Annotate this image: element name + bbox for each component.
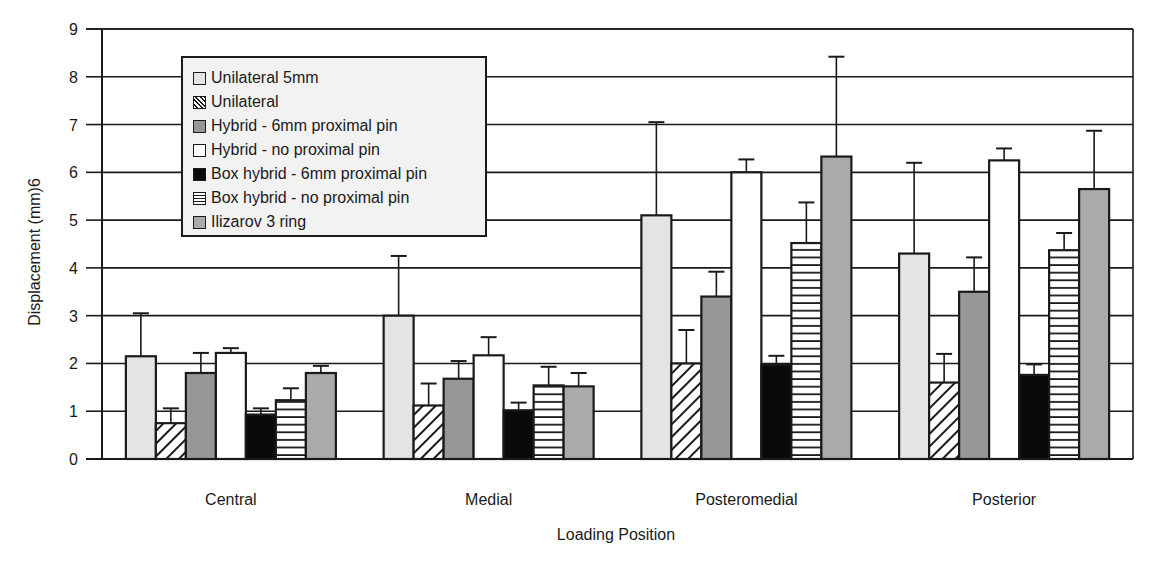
bar xyxy=(701,297,731,459)
legend-item-ilizarov-3-ring: Ilizarov 3 ring xyxy=(193,210,485,234)
bar-group-medial xyxy=(384,256,594,459)
bar xyxy=(1079,189,1109,459)
legend-item-box-hybrid-6mm: Box hybrid - 6mm proximal pin xyxy=(193,162,485,186)
legend-item-box-hybrid-no-pin: Box hybrid - no proximal pin xyxy=(193,186,485,210)
bar xyxy=(989,160,1019,459)
bar xyxy=(186,373,216,459)
bar xyxy=(384,316,414,459)
bar-group-central xyxy=(126,313,336,459)
bar xyxy=(564,386,594,459)
y-axis-label: Displacement (mm)6 xyxy=(26,178,43,326)
x-axis-label: Loading Position xyxy=(557,526,675,543)
bar xyxy=(821,157,851,459)
bar xyxy=(276,400,306,459)
x-category-label: Medial xyxy=(465,491,512,508)
legend-label: Ilizarov 3 ring xyxy=(211,213,306,231)
bar xyxy=(671,363,701,459)
legend-label: Box hybrid - 6mm proximal pin xyxy=(211,165,427,183)
legend-label: Hybrid - 6mm proximal pin xyxy=(211,117,398,135)
y-tick-label: 5 xyxy=(69,212,78,229)
chart-canvas: 0123456789 CentralMedialPosteromedialPos… xyxy=(0,0,1151,561)
bar-group-posteromedial xyxy=(641,57,851,459)
legend-label: Unilateral xyxy=(211,93,279,111)
bar xyxy=(126,356,156,459)
x-axis-category-labels: CentralMedialPosteromedialPosterior xyxy=(205,491,1037,508)
y-tick-label: 6 xyxy=(69,164,78,181)
y-tick-label: 4 xyxy=(69,260,78,277)
legend-swatch-medium-gray xyxy=(193,216,206,229)
legend-swatch-dark-gray xyxy=(193,120,206,133)
legend-swatch-light-gray xyxy=(193,72,206,85)
bar xyxy=(641,215,671,459)
bar xyxy=(414,405,444,459)
y-tick-label: 7 xyxy=(69,117,78,134)
bar-chart: 0123456789 CentralMedialPosteromedialPos… xyxy=(0,0,1151,561)
bar xyxy=(306,373,336,459)
bar xyxy=(791,243,821,459)
y-tick-label: 9 xyxy=(69,21,78,38)
bar xyxy=(929,383,959,459)
legend-label: Hybrid - no proximal pin xyxy=(211,141,380,159)
bar xyxy=(246,415,276,459)
y-tick-label: 3 xyxy=(69,308,78,325)
bar-group-posterior xyxy=(899,131,1109,459)
y-tick-label: 8 xyxy=(69,69,78,86)
legend-swatch-diagonal-hatch xyxy=(193,96,206,109)
bar xyxy=(899,254,929,459)
legend-swatch-horizontal-stripes xyxy=(193,192,206,205)
legend-swatch-white xyxy=(193,144,206,157)
legend: Unilateral 5mm Unilateral Hybrid - 6mm p… xyxy=(181,56,487,237)
bar xyxy=(216,353,246,459)
legend-item-hybrid-no-pin: Hybrid - no proximal pin xyxy=(193,138,485,162)
legend-swatch-black xyxy=(193,168,206,181)
y-tick-label: 1 xyxy=(69,403,78,420)
bar xyxy=(504,410,534,459)
y-axis-ticks: 0123456789 xyxy=(69,21,102,468)
bar xyxy=(731,172,761,459)
bar xyxy=(959,292,989,459)
legend-label: Box hybrid - no proximal pin xyxy=(211,189,409,207)
bar xyxy=(156,423,186,459)
x-category-label: Posterior xyxy=(972,491,1037,508)
bar xyxy=(534,385,564,459)
bar xyxy=(761,365,791,459)
y-tick-label: 0 xyxy=(69,451,78,468)
legend-label: Unilateral 5mm xyxy=(211,69,319,87)
legend-item-unilateral: Unilateral xyxy=(193,90,485,114)
bar xyxy=(444,379,474,459)
bar xyxy=(1019,375,1049,459)
bar xyxy=(1049,250,1079,459)
legend-item-unilateral-5mm: Unilateral 5mm xyxy=(193,66,485,90)
y-tick-label: 2 xyxy=(69,355,78,372)
legend-item-hybrid-6mm: Hybrid - 6mm proximal pin xyxy=(193,114,485,138)
x-category-label: Central xyxy=(205,491,257,508)
x-category-label: Posteromedial xyxy=(695,491,797,508)
bar xyxy=(474,355,504,459)
